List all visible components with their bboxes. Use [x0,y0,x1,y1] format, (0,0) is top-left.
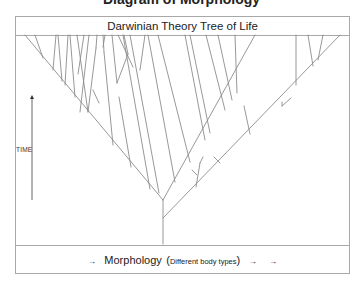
tree-branch [140,35,145,70]
tree-branch [244,106,250,134]
tree-of-life-diagram [0,0,363,288]
tree-branch [96,35,97,48]
tree-branch [35,35,43,58]
tree-branch [123,35,150,189]
tree-branch [190,35,210,133]
tree-branch [70,35,75,97]
tree-branch [200,157,203,163]
tree-branch [53,35,56,70]
tree-branch [163,35,340,218]
tree-branches [25,35,340,244]
tree-branch [163,35,255,200]
tree-branch [25,35,163,200]
tree-branch [206,35,225,110]
tree-branch [148,35,175,182]
tree-branch [80,35,89,112]
tree-branch [112,35,117,83]
tree-branch [119,97,131,167]
tree-branch [88,48,96,112]
tree-branch [185,35,205,140]
tree-branch [192,170,197,175]
tree-branch [65,35,68,85]
tree-branch [158,35,190,162]
tree-branch [130,35,159,193]
time-axis-label: TIME [16,146,32,153]
tree-branch [282,98,291,106]
tree-branch [93,90,99,103]
tree-branch [117,54,128,83]
tree-branch [318,35,323,60]
tree-branch [308,35,313,66]
tree-branch [235,35,237,93]
tree-branch [58,35,62,81]
tree-branch [78,35,84,74]
